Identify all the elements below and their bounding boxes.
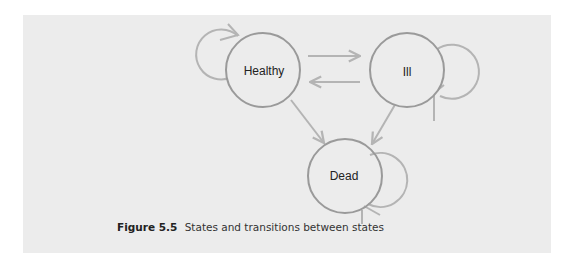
node-label-ill: Ill — [403, 65, 412, 79]
node-label-healthy: Healthy — [244, 64, 285, 78]
figure-caption-text: States and transitions between states — [185, 221, 384, 233]
figure-number: Figure 5.5 — [117, 221, 177, 233]
edge-dead-self-loop — [362, 153, 407, 224]
edge-healthy-to-dead — [291, 100, 324, 143]
node-label-dead: Dead — [330, 169, 359, 183]
figure-caption: Figure 5.5 States and transitions betwee… — [117, 221, 384, 233]
edge-ill-to-dead — [372, 103, 396, 144]
